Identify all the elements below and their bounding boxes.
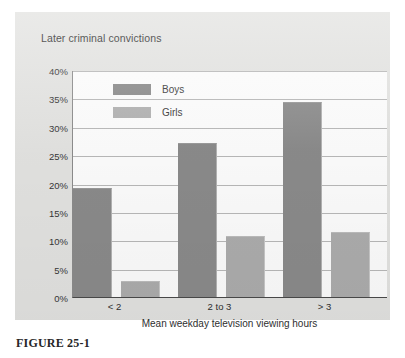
bar-girls-2[interactable] xyxy=(331,232,370,297)
y-axis-tick-label: 15% xyxy=(49,207,68,218)
y-axis-tick-labels: 0%5%10%15%20%25%30%35%40% xyxy=(37,71,68,298)
chart-legend: BoysGirls xyxy=(113,81,184,127)
y-axis-tick-label: 30% xyxy=(49,122,68,133)
legend-item-boys[interactable]: Boys xyxy=(113,81,184,97)
bar-boys-2[interactable] xyxy=(283,102,322,297)
y-axis-tick-label: 25% xyxy=(49,151,68,162)
y-axis-tick-label: 40% xyxy=(49,66,68,77)
y-axis-tick-label: 5% xyxy=(54,264,68,275)
chart-title: Later criminal convictions xyxy=(41,32,161,44)
y-axis-tick-label: 10% xyxy=(49,236,68,247)
legend-swatch-girls-icon xyxy=(113,107,151,118)
x-axis-title: Mean weekday television viewing hours xyxy=(72,318,387,329)
y-axis-tick-label: 20% xyxy=(49,179,68,190)
legend-swatch-boys-icon xyxy=(113,84,151,95)
x-axis-tick-labels: < 22 to 3> 3 xyxy=(72,301,387,317)
figure-panel: Later criminal convictions 0%5%10%15%20%… xyxy=(15,12,390,320)
x-axis-tick-label: > 3 xyxy=(318,301,331,312)
figure-caption: FIGURE 25-1 xyxy=(16,336,90,351)
x-axis-tick-label: < 2 xyxy=(108,301,121,312)
legend-label: Girls xyxy=(162,107,183,118)
legend-item-girls[interactable]: Girls xyxy=(113,104,184,120)
y-axis-tick-label: 0% xyxy=(54,293,68,304)
legend-label: Boys xyxy=(162,84,184,95)
y-axis-tick-label: 35% xyxy=(49,94,68,105)
plot-area: BoysGirls xyxy=(72,71,387,298)
x-axis-tick-label: 2 to 3 xyxy=(208,301,232,312)
